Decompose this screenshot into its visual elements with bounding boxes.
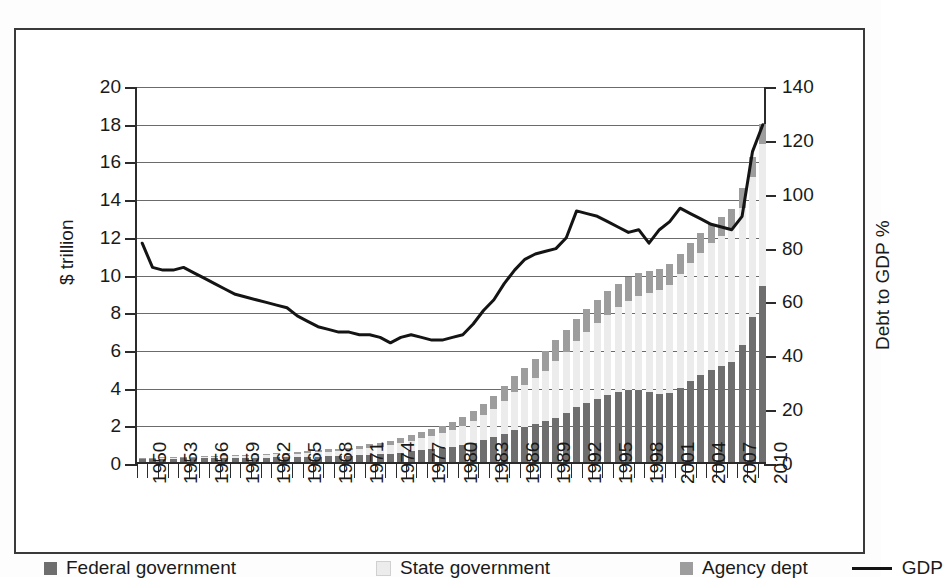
legend-swatch [44, 562, 57, 575]
x-axis-tick [489, 462, 490, 478]
x-axis-tick [675, 462, 676, 478]
y-axis-right-tick-label: 100 [782, 184, 842, 206]
legend-label: GDP [902, 557, 943, 579]
y-axis-right-tick-label: 80 [782, 238, 842, 260]
x-axis-tick-label: 1995 [615, 442, 637, 484]
x-axis-tick-label: 2010 [770, 442, 792, 484]
x-axis-tick-label: 1986 [522, 442, 544, 484]
y-axis-left-tick-label: 0 [61, 453, 121, 475]
x-axis-tick-label: 2007 [739, 442, 761, 484]
x-axis-tick [613, 462, 614, 478]
x-axis-tick-label: 2001 [677, 442, 699, 484]
y-axis-left-tick [125, 87, 137, 89]
legend-swatch [680, 562, 693, 575]
legend-item-state-government[interactable]: State government [376, 557, 550, 579]
legend-line-marker [852, 567, 892, 570]
y-axis-left-tick [125, 162, 137, 164]
y-axis-left-tick-label: 8 [61, 302, 121, 324]
legend-swatch [376, 561, 391, 576]
x-axis-tick-label: 1965 [304, 442, 326, 484]
y-axis-left-tick [125, 351, 137, 353]
legend-label: Agency dept [702, 557, 808, 579]
x-axis-tick-label: 1974 [397, 442, 419, 484]
y-axis-left-tick [125, 426, 137, 428]
y-axis-left-tick [125, 276, 137, 278]
x-axis-tick-label: 1998 [646, 442, 668, 484]
x-axis-tick [737, 462, 738, 478]
y-axis-right-tick-label: 40 [782, 345, 842, 367]
chart-outer-border: $ trillion Debt to GDP % 024681012141618… [14, 28, 865, 554]
plot-area: 02468101214161820 020406080100120140 195… [135, 87, 766, 464]
x-axis-tick-label: 1962 [273, 442, 295, 484]
y-axis-left-tick-label: 6 [61, 340, 121, 362]
legend-label: Federal government [66, 557, 236, 579]
y-axis-left-tick-label: 4 [61, 378, 121, 400]
x-axis-tick [706, 462, 707, 478]
gdp-line-series [137, 87, 768, 464]
x-axis-tick-label: 1977 [428, 442, 450, 484]
x-axis-tick-label: 1992 [584, 442, 606, 484]
x-axis-tick-label: 1983 [491, 442, 513, 484]
x-axis-tick [137, 462, 138, 478]
chart-legend: Federal governmentState governmentAgency… [44, 555, 870, 581]
y-axis-left-tick [125, 200, 137, 202]
x-axis-tick [582, 462, 583, 478]
legend-item-federal-government[interactable]: Federal government [44, 557, 236, 579]
y-axis-left-tick [125, 125, 137, 127]
x-axis-tick-label: 1953 [180, 442, 202, 484]
y-axis-left-tick [125, 313, 137, 315]
x-axis-tick-label: 1956 [211, 442, 233, 484]
x-axis-tick [458, 462, 459, 478]
x-axis-tick-label: 1968 [335, 442, 357, 484]
x-axis-tick-label: 1980 [460, 442, 482, 484]
y-axis-right-tick-label: 140 [782, 76, 842, 98]
y-axis-right-tick-label: 120 [782, 130, 842, 152]
x-axis-tick [644, 462, 645, 478]
legend-item-gdp[interactable]: GDP [852, 557, 943, 579]
y-axis-right-title: Debt to GDP % [872, 220, 894, 350]
x-axis-tick-label: 1989 [553, 442, 575, 484]
y-axis-left-tick-label: 12 [61, 227, 121, 249]
x-axis-tick-label: 1971 [366, 442, 388, 484]
y-axis-left-tick [125, 389, 137, 391]
x-axis-tick-label: 1959 [242, 442, 264, 484]
legend-item-agency-dept[interactable]: Agency dept [680, 557, 808, 579]
x-axis-tick [551, 462, 552, 478]
y-axis-right-tick-label: 60 [782, 291, 842, 313]
y-axis-left-tick-label: 16 [61, 151, 121, 173]
x-axis-tick [520, 462, 521, 478]
x-axis-tick-label: 2004 [708, 442, 730, 484]
y-axis-left-tick-label: 18 [61, 114, 121, 136]
y-axis-left-tick-label: 10 [61, 265, 121, 287]
y-axis-left-tick [125, 238, 137, 240]
y-axis-left-tick [125, 464, 137, 466]
legend-label: State government [400, 557, 550, 579]
y-axis-left-tick-label: 20 [61, 76, 121, 98]
x-axis-tick-label: 1950 [149, 442, 171, 484]
y-axis-left-tick-label: 14 [61, 189, 121, 211]
y-axis-left-tick-label: 2 [61, 415, 121, 437]
y-axis-right-tick-label: 20 [782, 399, 842, 421]
